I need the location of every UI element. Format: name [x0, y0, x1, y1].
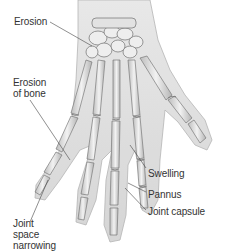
- label-swelling: Swelling: [148, 168, 184, 179]
- label-joint-capsule: Joint capsule: [148, 206, 205, 217]
- rheumatoid-hand-diagram: Erosion Erosion of bone Swelling Pannus …: [0, 0, 225, 252]
- label-pannus: Pannus: [148, 189, 181, 200]
- label-erosion: Erosion: [14, 16, 47, 27]
- leader-erosion-of-bone: [30, 100, 70, 160]
- label-erosion-of-bone: Erosion of bone: [13, 77, 46, 99]
- label-joint-space-narrowing: Joint space narrowing: [13, 218, 56, 251]
